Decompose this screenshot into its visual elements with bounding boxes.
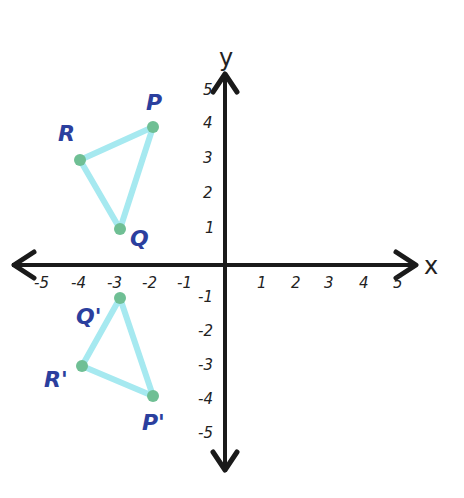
triangle-pqr: P Q R	[58, 90, 162, 251]
label-r-prime: R'	[44, 367, 68, 392]
y-tick: 1	[205, 219, 215, 237]
x-tick: -2	[142, 274, 157, 292]
y-tick: -4	[198, 390, 213, 408]
point-p-prime	[147, 390, 159, 402]
y-tick: -3	[198, 356, 213, 374]
point-r-prime	[76, 360, 88, 372]
label-q: Q	[130, 226, 149, 251]
label-p-prime: P'	[142, 410, 165, 435]
y-axis: y	[213, 44, 237, 470]
y-tick: 2	[203, 184, 213, 202]
triangle-pqr-prime: P' Q' R'	[44, 292, 165, 435]
y-tick: -1	[198, 288, 213, 306]
y-axis-label: y	[219, 44, 233, 72]
label-r: R	[58, 121, 75, 146]
x-tick-labels: -5 -4 -3 -2 -1 1 2 3 4 5	[34, 274, 403, 292]
x-tick: -1	[177, 274, 192, 292]
x-tick: 4	[359, 274, 369, 292]
coordinate-plane: x y -5 -4 -3 -2 -1 1 2 3 4 5 5 4 3 2 1 -…	[0, 0, 464, 498]
point-r	[74, 154, 86, 166]
y-tick: 4	[203, 114, 213, 132]
x-tick: -4	[71, 274, 86, 292]
x-tick: 3	[324, 274, 334, 292]
label-q-prime: Q'	[76, 304, 101, 329]
x-tick: 1	[257, 274, 267, 292]
x-tick: 2	[291, 274, 301, 292]
label-p: P	[146, 90, 162, 115]
x-axis-label: x	[424, 252, 438, 280]
x-tick: 5	[393, 274, 403, 292]
y-tick: -2	[198, 322, 213, 340]
point-p	[147, 121, 159, 133]
x-tick: -5	[34, 274, 49, 292]
y-tick: 3	[203, 149, 213, 167]
x-tick: -3	[107, 274, 122, 292]
point-q-prime	[114, 292, 126, 304]
y-tick-labels: 5 4 3 2 1 -1 -2 -3 -4 -5	[198, 81, 215, 442]
y-tick: 5	[203, 81, 213, 99]
y-tick: -5	[198, 424, 213, 442]
point-q	[114, 223, 126, 235]
